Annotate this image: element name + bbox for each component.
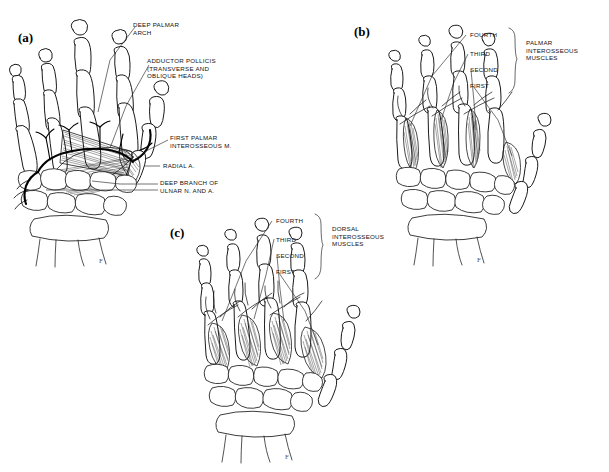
panel-b-letter: (b): [354, 24, 370, 40]
panel-a-letter: (a): [18, 30, 33, 46]
label-b-group: PALMAR INTEROSSEOUS MUSCLES: [526, 39, 578, 62]
panel-b-brace: [506, 26, 522, 96]
panel-c-brace: [312, 212, 328, 282]
label-b-second: SECOND: [470, 66, 498, 74]
label-radial-artery: RADIAL A.: [163, 162, 195, 170]
label-c-third: THIRD: [276, 236, 296, 244]
hand-c-forearm-bones: F: [216, 411, 295, 463]
label-c-fourth: FOURTH: [276, 217, 303, 225]
hand-a-carpal-bones: [18, 169, 136, 216]
artist-mark-b: F: [477, 256, 481, 264]
hand-c-thumb: [332, 305, 360, 379]
artist-mark-c: F: [285, 453, 289, 461]
label-b-third: THIRD: [470, 50, 490, 58]
label-b-first: FIRST: [470, 82, 489, 90]
panel-c-hand-illustration: F: [160, 195, 440, 472]
hand-b-thumb: [523, 113, 551, 187]
panel-c: (c): [160, 195, 440, 472]
panel-c-letter: (c): [170, 225, 184, 241]
label-adductor-pollicis: ADDUCTOR POLLICIS (TRANSVERSE AND OBLIQU…: [147, 57, 216, 80]
hand-a-forearm-bones: F: [30, 215, 109, 267]
label-c-group: DORSAL INTEROSSEOUS MUSCLES: [332, 225, 384, 248]
label-first-palmar-interosseous: FIRST PALMAR INTEROSSEOUS M.: [170, 134, 232, 149]
label-c-first: FIRST: [276, 268, 295, 276]
label-deep-branch-ulnar: DEEP BRANCH OF ULNAR N. AND A.: [160, 179, 218, 194]
label-c-second: SECOND: [276, 252, 304, 260]
anatomical-figure: (a): [0, 0, 609, 472]
hand-c-carpal-bones: [204, 364, 322, 411]
label-b-fourth: FOURTH: [470, 31, 497, 39]
artist-mark-a: F: [99, 257, 103, 265]
label-deep-palmar-arch: DEEP PALMAR ARCH: [133, 21, 179, 36]
